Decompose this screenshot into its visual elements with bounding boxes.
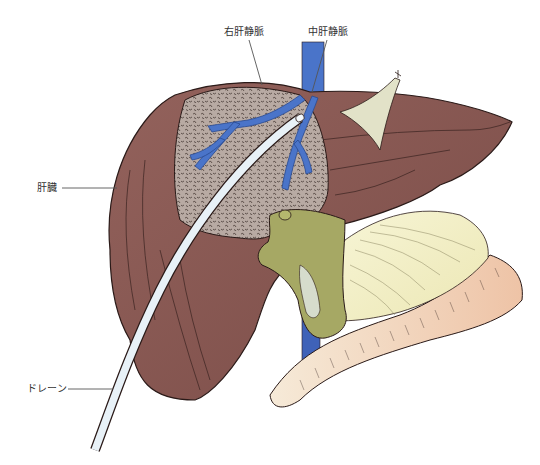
duct-stump [279,210,291,220]
label-middle-hepatic-vein: 中肝静脈 [308,26,348,38]
leader-right-hepatic-vein [249,40,262,85]
ligature-icon [395,70,401,78]
label-right-hepatic-vein: 右肝静脈 [224,26,264,38]
label-liver: 肝臓 [37,182,57,194]
label-drain: ドレーン [27,383,67,395]
liver-illustration [0,0,540,465]
